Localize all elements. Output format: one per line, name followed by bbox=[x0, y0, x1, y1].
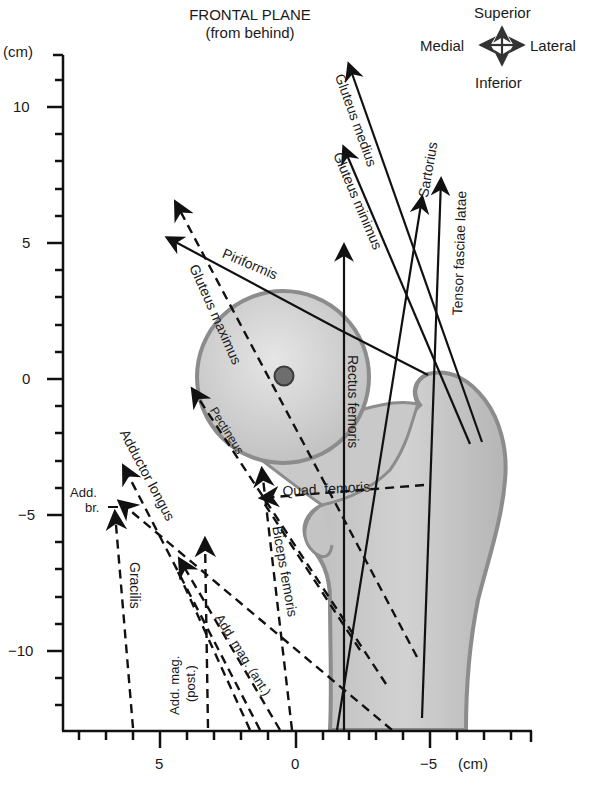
orientation-compass bbox=[480, 27, 524, 65]
lateral-label: Lateral bbox=[530, 38, 576, 53]
inferior-label: Inferior bbox=[475, 75, 522, 90]
diagram-title: FRONTAL PLANE (from behind) bbox=[150, 6, 350, 42]
x-tick-0: 0 bbox=[291, 756, 299, 771]
frontal-plane-hip-diagram: FRONTAL PLANE (from behind) Superior Inf… bbox=[0, 0, 592, 790]
y-tick-0: 0 bbox=[22, 371, 30, 386]
y-tick-10: 10 bbox=[13, 99, 30, 114]
add-br-label-line2: br. bbox=[85, 501, 99, 514]
x-tick-5: 5 bbox=[155, 756, 163, 771]
y-tick-5: 5 bbox=[22, 235, 30, 250]
x-axis-unit: (cm) bbox=[458, 756, 488, 771]
y-axis-unit: (cm) bbox=[3, 44, 33, 59]
medial-label: Medial bbox=[420, 38, 464, 53]
gracilis-label: Gracilis bbox=[128, 562, 142, 609]
title-line-2: (from behind) bbox=[150, 24, 350, 42]
diagram-canvas bbox=[0, 0, 592, 790]
gracilis-line bbox=[115, 513, 133, 728]
x-tick-neg5: −5 bbox=[420, 756, 437, 771]
add-br-label-line1: Add. bbox=[70, 486, 97, 499]
rectus-femoris-label: Rectus femoris bbox=[346, 355, 360, 448]
y-tick-neg5: −5 bbox=[18, 507, 35, 522]
tensor-fasciae-latae-label: Tensor fasciae latae bbox=[450, 191, 468, 316]
title-line-1: FRONTAL PLANE bbox=[150, 6, 350, 24]
x-axis bbox=[62, 731, 532, 748]
add-mag-post-label-line2: (post.) bbox=[184, 665, 197, 702]
y-axis bbox=[47, 55, 63, 731]
superior-label: Superior bbox=[474, 5, 531, 20]
add-mag-post-label-line1: Add. mag. bbox=[168, 656, 181, 715]
y-tick-neg10: −10 bbox=[8, 643, 33, 658]
